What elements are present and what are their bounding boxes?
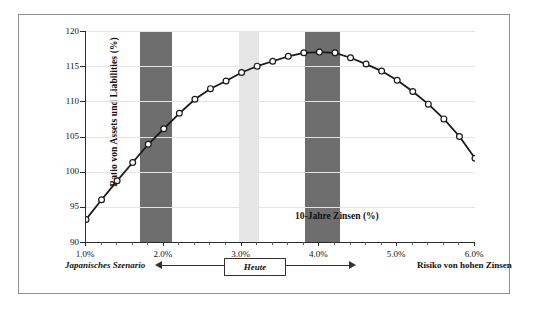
series-line [86,31,475,242]
x-tick-minor [350,242,351,245]
right-arrow-head [349,261,356,269]
x-tick-major [163,242,164,246]
x-tick-major [396,242,397,246]
y-tick-label: 100 [49,167,79,176]
y-tick-label: 90 [49,238,79,247]
y-tick-label: 115 [49,62,79,71]
data-point-marker [254,63,260,69]
x-tick-minor [225,242,226,245]
y-tick-label: 95 [49,202,79,211]
x-tick-major [474,242,475,246]
data-point-marker [176,110,182,116]
data-point-marker [161,126,167,132]
data-point-marker [425,101,431,107]
x-axis-title: 10-Jahre Zinsen (%) [295,211,379,221]
y-tick [80,101,85,102]
data-point-marker [472,155,475,161]
data-point-marker [410,89,416,95]
data-point-marker [239,70,245,76]
series-path [86,52,475,219]
y-tick [80,31,85,32]
x-tick-minor [443,242,444,245]
data-point-marker [332,50,338,56]
x-tick-label: 4.0% [298,249,338,259]
x-tick-major [318,242,319,246]
x-tick-minor [458,242,459,245]
x-tick-minor [147,242,148,245]
data-point-marker [394,77,400,83]
x-tick-minor [412,242,413,245]
data-point-marker [270,58,276,64]
data-point-marker [457,134,463,140]
y-tick [80,172,85,173]
x-tick-minor [101,242,102,245]
x-tick-minor [194,242,195,245]
y-tick-label: 120 [49,27,79,36]
x-tick-minor [272,242,273,245]
data-point-marker [99,197,105,203]
plot-area [85,31,475,243]
y-tick-label: 110 [49,97,79,106]
x-tick-label: 2.0% [143,249,183,259]
data-point-marker [363,61,369,67]
x-tick-minor [178,242,179,245]
data-point-marker [301,50,307,56]
plot-area-wrapper: 9095100105110115120 1.0%2.0%3.0%4.0%5.0%… [85,31,475,243]
x-tick-minor [303,242,304,245]
data-point-marker [114,178,120,184]
x-tick-minor [132,242,133,245]
x-tick-major [241,242,242,246]
right-arrow-shaft [286,265,349,266]
left-arrow-shaft [162,265,224,266]
y-tick [80,207,85,208]
x-tick-label: 1.0% [65,249,105,259]
x-tick-label: 6.0% [454,249,494,259]
chart-figure: Ratio von Assets und Liabilities (%) 909… [18,14,510,294]
data-point-marker [85,217,89,223]
x-tick-minor [116,242,117,245]
data-point-marker [317,49,323,55]
x-tick-minor [287,242,288,245]
x-tick-label: 5.0% [376,249,416,259]
data-point-marker [379,68,385,74]
x-tick-minor [334,242,335,245]
data-point-marker [208,86,214,92]
x-tick-minor [256,242,257,245]
x-tick-major [85,242,86,246]
y-tick-label: 105 [49,132,79,141]
scenario-annotation-strip: Japanisches Szenario Heute Risiko von ho… [19,260,509,294]
x-tick-minor [209,242,210,245]
y-tick [80,66,85,67]
right-scenario-label: Risiko von hohen Zinsen [417,260,527,271]
data-point-marker [348,55,354,61]
x-tick-minor [427,242,428,245]
data-point-marker [223,78,229,84]
y-tick [80,137,85,138]
data-point-marker [285,53,291,59]
left-arrow-head [155,261,162,269]
data-point-marker [441,116,447,122]
data-point-marker [145,141,151,147]
data-point-marker [192,96,198,102]
x-tick-minor [365,242,366,245]
current-state-box: Heute [224,258,286,276]
data-point-marker [130,160,136,166]
x-tick-minor [381,242,382,245]
